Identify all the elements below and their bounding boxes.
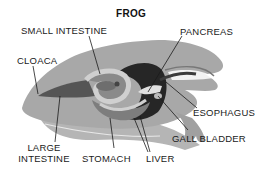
label-large-intestine-line1: LARGE <box>14 142 74 153</box>
label-liver: LIVER <box>146 153 174 164</box>
label-large-intestine-line2: INTESTINE <box>14 153 74 164</box>
label-small-intestine: SMALL INTESTINE <box>21 25 107 36</box>
label-cloaca: CLOACA <box>17 55 57 66</box>
label-esophagus: ESOPHAGUS <box>193 107 255 118</box>
label-large-intestine: LARGE INTESTINE <box>14 142 74 164</box>
label-pancreas: PANCREAS <box>180 26 233 37</box>
diagram-title: FROG <box>116 8 146 19</box>
label-gall-bladder: GALL BLADDER <box>172 133 246 144</box>
label-stomach: STOMACH <box>82 153 131 164</box>
